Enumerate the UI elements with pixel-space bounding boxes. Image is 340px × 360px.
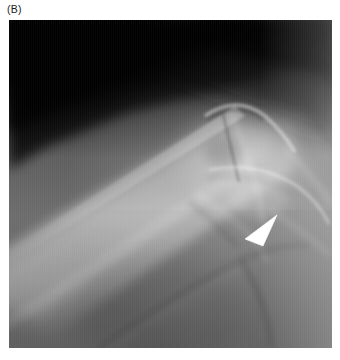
right-edge-tone — [259, 20, 332, 348]
figure-root: (B) — [0, 0, 340, 360]
xray-image — [9, 20, 332, 348]
xray-canvas — [9, 20, 332, 348]
panel-label: (B) — [7, 2, 22, 16]
